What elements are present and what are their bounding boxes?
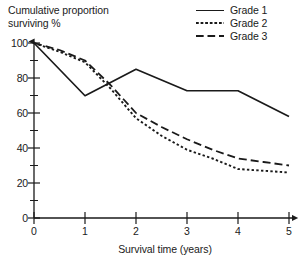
series-line-grade-1: [34, 43, 289, 117]
plot-area: [0, 0, 303, 265]
series-line-grade-3: [34, 43, 289, 166]
series-line-grade-2: [34, 43, 289, 173]
chart-figure: Cumulative proportion surviving % Grade …: [0, 0, 303, 265]
